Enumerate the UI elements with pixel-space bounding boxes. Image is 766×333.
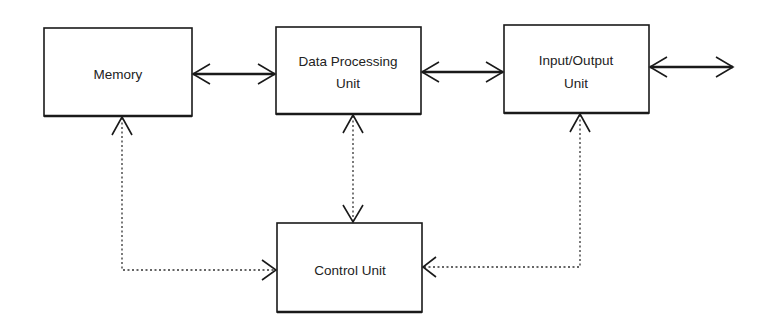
control-io-link (423, 114, 590, 277)
io-unit-block: Input/Output Unit (504, 25, 649, 113)
control-unit-block: Control Unit (277, 223, 422, 312)
io-unit-label-line2: Unit (564, 76, 588, 91)
data-processing-unit-label-line2: Unit (336, 76, 360, 91)
memory-block: Memory (44, 28, 192, 116)
io-external-arrow (650, 57, 733, 77)
data-processing-unit-label-line1: Data Processing (298, 54, 397, 69)
control-unit-label: Control Unit (314, 263, 386, 278)
block-diagram: Memory Data Processing Unit Input/Output… (0, 0, 766, 333)
memory-dpu-arrow (193, 64, 275, 84)
io-unit-label-line1: Input/Output (539, 53, 614, 68)
control-memory-link (112, 117, 276, 280)
memory-label: Memory (94, 67, 143, 82)
data-processing-unit-block: Data Processing Unit (276, 27, 421, 114)
dpu-io-arrow (422, 62, 503, 82)
control-dpu-link (343, 115, 363, 222)
